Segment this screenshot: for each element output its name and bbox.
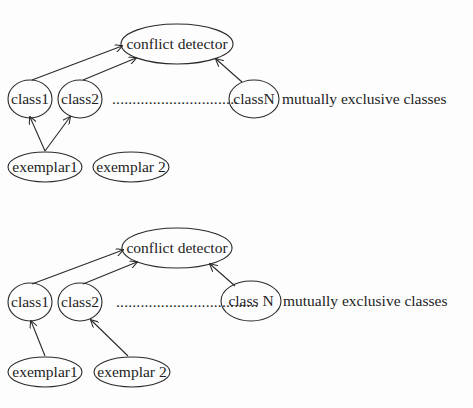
class1-label: class1 [11, 293, 49, 310]
exemplar1-label: exemplar1 [12, 363, 77, 380]
exemplar1-node: exemplar1 [8, 152, 82, 182]
edge-class1-to-detector [32, 46, 122, 80]
mutually-exclusive-annotation: mutually exclusive classes [283, 292, 447, 309]
conflict-detector-label: conflict detector [126, 35, 228, 52]
edge-exemplar1-to-class1 [30, 117, 45, 151]
top-diagram: conflict detector class1 class2 ........… [8, 24, 446, 182]
exemplar2-node: exemplar 2 [94, 357, 170, 387]
edge-exemplar1-to-class2 [45, 117, 70, 151]
edge-class2-to-detector [83, 58, 136, 80]
classN-label: classN [233, 90, 274, 107]
classN-node: class N [221, 281, 281, 321]
edge-exemplar2-to-class2 [91, 320, 128, 356]
exemplar1-node: exemplar1 [8, 357, 82, 387]
diagram-canvas: conflict detector class1 class2 ........… [0, 0, 473, 408]
bottom-diagram: conflict detector class1 class2 ........… [8, 228, 447, 387]
edge-classN-to-detector [216, 59, 242, 82]
exemplar2-label: exemplar 2 [96, 158, 165, 175]
conflict-detector-label: conflict detector [126, 239, 228, 256]
edge-class2-to-detector [83, 262, 137, 284]
exemplar1-label: exemplar1 [12, 158, 77, 175]
classN-node: classN [229, 80, 279, 118]
class1-node: class1 [8, 80, 52, 118]
edge-classN-to-detector [210, 264, 235, 286]
mutually-exclusive-annotation: mutually exclusive classes [282, 90, 446, 107]
ellipsis-dots: ............................... [112, 90, 238, 107]
classN-label: class N [228, 292, 273, 309]
edge-exemplar1-to-class1 [31, 321, 45, 356]
exemplar2-node: exemplar 2 [93, 152, 169, 182]
class1-label: class1 [11, 90, 49, 107]
class2-label: class2 [61, 293, 99, 310]
class1-node: class1 [8, 283, 52, 321]
edge-class1-to-detector [32, 250, 123, 284]
class2-node: class2 [58, 283, 102, 321]
exemplar2-label: exemplar 2 [97, 363, 166, 380]
conflict-detector-node: conflict detector [121, 24, 233, 64]
class2-label: class2 [61, 90, 99, 107]
class2-node: class2 [58, 80, 102, 118]
conflict-detector-node: conflict detector [122, 228, 232, 268]
